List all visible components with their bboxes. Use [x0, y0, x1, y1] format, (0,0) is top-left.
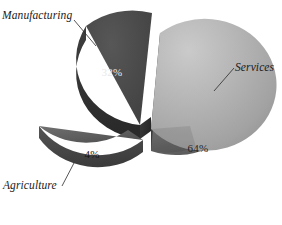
pie-slice-manufacturing[interactable]: 32% — [76, 10, 152, 139]
leader-line-agriculture — [62, 163, 74, 186]
pie-callout-label-agriculture: Agriculture — [3, 179, 57, 191]
pie-slice-agriculture[interactable]: 4% — [39, 126, 143, 167]
pie-value-label-services: 64% — [188, 142, 209, 154]
pie-chart-figure: 64% 32% 4% Manufacturing Services Agricu… — [0, 0, 282, 225]
pie-slice-manufacturing-inner-wall — [140, 117, 151, 139]
pie-value-label-manufacturing: 32% — [102, 66, 123, 78]
pie-chart-canvas: 64% 32% 4% — [0, 0, 282, 225]
pie-slice-services[interactable]: 64% — [151, 19, 277, 155]
pie-callout-label-manufacturing: Manufacturing — [2, 9, 72, 21]
pie-value-label-agriculture: 4% — [84, 148, 99, 160]
pie-callout-label-services: Services — [235, 61, 274, 73]
